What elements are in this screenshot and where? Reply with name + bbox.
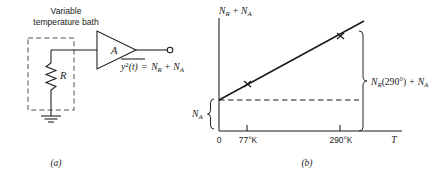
range-brace-na-sub: A (423, 81, 429, 88)
amplifier-label: A (110, 45, 118, 56)
na-brace-sub: A (197, 113, 203, 120)
na-brace (208, 99, 215, 129)
equation-plus: + (165, 61, 170, 72)
panel-b: NR+NA (191, 5, 429, 169)
x-tick-label-0: 0 (217, 135, 222, 145)
data-marker-77k (244, 81, 251, 87)
y-axis-plus: + (233, 5, 238, 16)
x-tick-label-77k: 77°K (239, 135, 258, 145)
data-line (219, 21, 364, 100)
y-axis-label: NR+NA (218, 5, 252, 17)
range-brace (359, 31, 367, 131)
figure-root: Variable temperature bath R A (0, 0, 431, 176)
output-terminal (167, 47, 173, 53)
panel-a: Variable temperature bath R A (28, 6, 185, 169)
output-equation: y2(t)=NR+NA (120, 59, 185, 73)
equation-na-sub: A (179, 66, 185, 73)
equation-equals: = (142, 61, 147, 72)
resistor-zigzag (46, 63, 56, 95)
equation-of-t: (t) (129, 61, 138, 73)
caption-panel-b: (b) (301, 158, 312, 169)
equation-nr-sub: R (157, 66, 163, 73)
range-brace-paren: (290°) (382, 76, 407, 88)
figure-svg: Variable temperature bath R A (0, 0, 431, 176)
resistor-label: R (59, 70, 67, 81)
y-axis-nr-sub: R (224, 10, 230, 17)
range-brace-plus: + (409, 76, 414, 87)
na-brace-label: NA (191, 108, 203, 120)
x-tick-label-290k: 290°K (330, 135, 353, 145)
x-axis-variable-label: T (391, 134, 397, 145)
caption-panel-a: (a) (50, 158, 61, 169)
y-axis-na-sub: A (246, 10, 252, 17)
equation-text: y2(t)=NR+NA (120, 61, 185, 74)
bath-label-line1: Variable (51, 6, 82, 16)
bath-label-line2: temperature bath (33, 17, 99, 27)
range-brace-label: NR(290°)+NA (370, 76, 429, 88)
